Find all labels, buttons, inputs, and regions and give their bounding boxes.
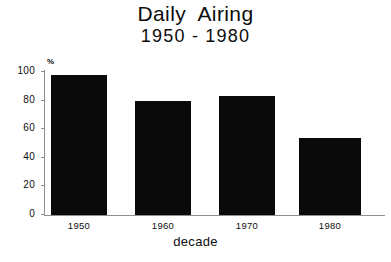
x-axis-title: decade [0, 234, 391, 249]
y-axis-line [44, 70, 45, 216]
y-tick-label-80: 80 [23, 95, 35, 105]
x-tick-label-1950: 1950 [68, 221, 90, 231]
bar-1950[interactable] [51, 75, 107, 215]
x-axis-line [44, 215, 385, 216]
plot-area: % 0 20 40 60 80 100 1950 1960 1970 1980 [44, 72, 385, 215]
y-tick-label-40: 40 [23, 152, 35, 162]
y-tick-label-20: 20 [23, 180, 35, 190]
x-tick-label-1960: 1960 [152, 221, 174, 231]
y-tick-label-60: 60 [23, 123, 35, 133]
y-tick-80: 80 [41, 100, 45, 101]
y-tick-100: 100 [41, 71, 45, 72]
y-tick-label-100: 100 [17, 66, 35, 76]
x-tick-label-1970: 1970 [236, 221, 258, 231]
y-axis-unit-label: % [47, 58, 54, 66]
y-tick-60: 60 [41, 128, 45, 129]
x-tick-label-1980: 1980 [319, 221, 341, 231]
title-block: Daily Airing 1950 - 1980 [0, 2, 391, 47]
y-tick-20: 20 [41, 185, 45, 186]
bar-1970[interactable] [219, 96, 275, 215]
y-tick-label-0: 0 [29, 209, 35, 219]
bar-chart-figure: Daily Airing 1950 - 1980 % 0 20 40 60 80… [0, 0, 391, 262]
y-tick-0: 0 [41, 214, 45, 215]
bar-1980[interactable] [299, 138, 361, 215]
chart-title: Daily Airing [0, 2, 391, 26]
y-tick-40: 40 [41, 157, 45, 158]
chart-subtitle: 1950 - 1980 [0, 26, 391, 47]
bar-1960[interactable] [135, 101, 191, 215]
